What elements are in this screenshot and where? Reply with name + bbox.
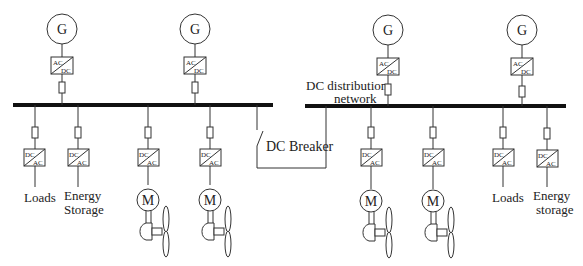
loads-label-right: Loads	[492, 190, 524, 205]
feeder-propulsion-3: DC AC M	[360, 106, 392, 258]
svg-text:AC: AC	[432, 159, 442, 167]
svg-text:AC: AC	[513, 60, 523, 68]
propeller-icon	[140, 206, 169, 257]
fuse-icon	[145, 127, 151, 138]
dc-breaker: DC Breaker	[257, 105, 334, 168]
fuse-icon	[430, 127, 436, 138]
loads-label-left: Loads	[24, 190, 56, 205]
svg-text:DC: DC	[194, 67, 204, 75]
dc-network-label-2: network	[334, 91, 377, 106]
propeller-icon	[202, 206, 231, 257]
propeller-icon	[363, 207, 392, 258]
svg-text:M: M	[204, 193, 217, 208]
svg-text:AC: AC	[209, 159, 219, 167]
svg-text:DC: DC	[201, 151, 211, 159]
diagram-canvas: DC Breaker DC distribution network G AC …	[0, 0, 583, 266]
energy-storage-label-right-1: Energy	[533, 188, 571, 203]
svg-text:M: M	[365, 194, 378, 209]
generator-unit-2: G AC DC	[180, 14, 210, 105]
svg-text:DC: DC	[25, 151, 35, 159]
svg-text:AC: AC	[502, 159, 512, 167]
svg-text:AC: AC	[379, 60, 389, 68]
svg-text:DC: DC	[61, 67, 71, 75]
svg-text:DC: DC	[494, 151, 504, 159]
feeder-propulsion-2: DC AC M	[199, 105, 231, 257]
generator-unit-1: G AC DC	[47, 14, 77, 105]
propeller-icon	[425, 207, 454, 258]
fuse-icon	[59, 82, 65, 93]
generator-unit-4: G AC DC	[507, 15, 537, 106]
fuse-icon	[385, 84, 391, 95]
svg-text:M: M	[427, 194, 440, 209]
dc-breaker-label: DC Breaker	[266, 139, 334, 154]
svg-text:AC: AC	[546, 160, 556, 168]
svg-text:G: G	[57, 22, 67, 37]
fuse-icon	[500, 127, 506, 138]
svg-text:AC: AC	[147, 159, 157, 167]
feeder-propulsion-4: DC AC M	[422, 106, 454, 258]
svg-text:AC: AC	[370, 159, 380, 167]
svg-text:DC: DC	[139, 151, 149, 159]
svg-text:DC: DC	[362, 151, 372, 159]
fuse-icon	[192, 82, 198, 93]
fuse-icon	[519, 86, 525, 97]
energy-storage-label-left-1: Energy	[64, 188, 102, 203]
fuse-icon	[368, 127, 374, 138]
svg-text:M: M	[142, 193, 155, 208]
svg-text:DC: DC	[521, 68, 531, 76]
energy-storage-label-left-2: Storage	[64, 202, 104, 217]
fuse-icon	[544, 128, 550, 139]
feeder-loads-right: DC AC Loads	[492, 106, 524, 205]
svg-text:G: G	[383, 23, 393, 38]
feeder-energy-storage-left: DC AC Energy Storage	[64, 105, 104, 217]
fuse-icon	[75, 127, 81, 138]
feeder-energy-storage-right: DC AC Energy storage	[533, 106, 574, 217]
svg-text:G: G	[517, 23, 527, 38]
svg-text:AC: AC	[33, 159, 43, 167]
fuse-icon	[207, 127, 213, 138]
energy-storage-label-right-2: storage	[536, 202, 574, 217]
svg-text:DC: DC	[424, 151, 434, 159]
svg-text:AC: AC	[77, 159, 87, 167]
svg-text:AC: AC	[53, 59, 63, 67]
fuse-icon	[32, 127, 38, 138]
feeder-loads-left: DC AC Loads	[24, 105, 56, 205]
svg-text:DC: DC	[387, 68, 397, 76]
svg-text:AC: AC	[186, 59, 196, 67]
svg-text:DC: DC	[538, 152, 548, 160]
svg-text:DC: DC	[69, 151, 79, 159]
svg-text:G: G	[190, 22, 200, 37]
feeder-propulsion-1: DC AC M	[137, 105, 169, 257]
